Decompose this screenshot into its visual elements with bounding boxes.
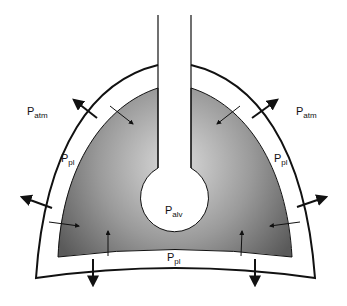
label-patm-left: Patm — [27, 105, 48, 120]
label-patm-right: Patm — [296, 105, 317, 120]
label-ppl-left: Ppl — [61, 152, 75, 167]
label-palv: Palv — [165, 204, 183, 219]
lung-pressure-diagram: Patm Patm Ppl Ppl Ppl Palv — [0, 0, 347, 306]
label-ppl-bottom: Ppl — [167, 251, 181, 266]
arrow-out-lower-right — [297, 197, 326, 207]
label-ppl-right: Ppl — [274, 152, 288, 167]
